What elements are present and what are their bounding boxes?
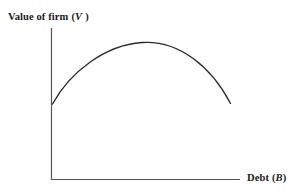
x-axis-label: Debt(B) [247,173,286,184]
y-axis-label-text: Value of firm [8,11,68,22]
x-axis-label-text: Debt [247,172,269,183]
y-axis-label: Value of firm(V) [8,12,89,23]
y-axis-variable: V [75,11,82,22]
value-of-firm-curve [53,42,231,104]
figure-canvas: Value of firm(V) Debt(B) [0,0,288,191]
x-axis-paren-close: ) [283,172,287,183]
plot-area [0,0,288,191]
y-axis-paren-close: ) [85,11,89,22]
x-axis-variable: B [276,172,283,183]
